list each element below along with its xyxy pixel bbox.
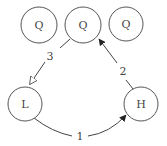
edge-1-line-end bbox=[88, 115, 126, 136]
edge-1-line bbox=[34, 118, 72, 136]
node-q3-label: Q bbox=[121, 18, 130, 31]
node-q2-label: Q bbox=[78, 19, 87, 32]
edge-3-label: 3 bbox=[47, 50, 54, 63]
node-q1[interactable]: Q bbox=[21, 7, 57, 43]
node-h-label: H bbox=[136, 98, 146, 111]
edge-1: 1 bbox=[34, 115, 126, 143]
edge-2-line bbox=[99, 39, 117, 63]
edge-2-label: 2 bbox=[120, 65, 127, 78]
node-q2[interactable]: Q bbox=[65, 7, 101, 43]
edge-2: 2 bbox=[99, 39, 133, 89]
node-l[interactable]: L bbox=[8, 87, 42, 121]
edge-2-line-start bbox=[126, 80, 133, 89]
node-q3[interactable]: Q bbox=[109, 7, 143, 41]
edge-3: 3 bbox=[30, 39, 70, 84]
edge-3-line bbox=[30, 62, 45, 84]
state-diagram: 1 2 3 Q Q Q L H bbox=[0, 0, 167, 146]
node-h[interactable]: H bbox=[124, 87, 158, 121]
edge-3-line-start bbox=[60, 39, 70, 48]
edge-1-label: 1 bbox=[77, 130, 84, 143]
node-l-label: L bbox=[21, 98, 29, 111]
node-q1-label: Q bbox=[34, 19, 43, 32]
